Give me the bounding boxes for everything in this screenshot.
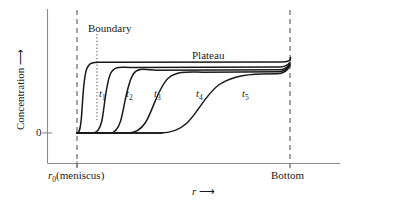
y-axis-title-text: Concentration: [14, 68, 26, 130]
bottom-axis-label: Bottom: [271, 170, 304, 181]
x-axis-variable: r: [192, 185, 196, 197]
curve-t1: [77, 60, 290, 133]
curve-label-t1: t1: [99, 89, 106, 102]
curve-label-t3-sub: 3: [157, 93, 161, 102]
boundary-label: Boundary: [88, 23, 131, 34]
meniscus-parenthetical: (meniscus): [56, 169, 104, 181]
axes-group: [42, 9, 340, 167]
curve-label-t4: t4: [196, 89, 203, 102]
curve-label-t5: t5: [242, 89, 249, 102]
curve-label-t1-sub: 1: [102, 93, 106, 102]
bottom-accumulation-spike: [290, 58, 291, 61]
arrow-up-icon: ⟶: [14, 50, 26, 65]
curve-label-t3: t3: [154, 89, 161, 102]
curve-label-t4-sub: 4: [199, 93, 203, 102]
curve-t5: [77, 65, 290, 133]
plateau-label: Plateau: [192, 50, 224, 61]
arrow-right-icon: ⟶: [199, 185, 214, 197]
curve-label-t2: t2: [126, 89, 133, 102]
x-axis-title: r ⟶: [192, 186, 214, 197]
reference-lines-group: [77, 10, 290, 170]
figure-container: Boundary Plateau 0 r0(meniscus) Bottom r…: [0, 0, 404, 201]
curve-label-t5-sub: 5: [245, 93, 249, 102]
y-axis-zero-label: 0: [36, 127, 42, 138]
y-axis-title: Concentration ⟶: [15, 50, 26, 130]
meniscus-axis-label: r0(meniscus): [48, 170, 104, 184]
curve-label-t2-sub: 2: [129, 93, 133, 102]
